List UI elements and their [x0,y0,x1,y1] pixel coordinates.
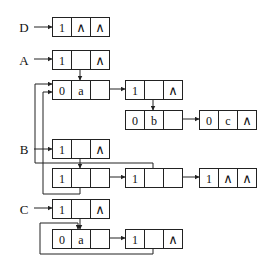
list-node-b3: 1 [126,169,183,188]
list-node-ac: 0c∧ [200,111,257,130]
cell-value: 0 [59,84,65,98]
list-node-b4: 1∧∧ [200,169,257,188]
generalized-list-diagram: 1∧∧1∧0a1∧0b0c∧1∧111∧∧1∧0a1∧ DABC [0,0,269,270]
nodes-layer: 1∧∧1∧0a1∧0b0c∧1∧111∧∧1∧0a1∧ [53,18,257,249]
list-node-a2: 1∧ [126,81,183,100]
null-pointer-symbol: ∧ [95,202,105,217]
list-node-b1: 1∧ [53,140,110,159]
cell-value: 1 [59,21,65,35]
cell-value: b [151,114,157,128]
cell-value: 1 [132,172,138,186]
head-field [72,51,91,70]
list-node-ca: 0a [53,230,110,249]
null-pointer-symbol: ∧ [242,113,252,128]
head-field [145,169,164,188]
list-node-b2: 1 [53,169,110,188]
list-node-d1: 1∧∧ [53,18,110,37]
cell-value: c [225,114,230,128]
head-field [145,81,164,100]
cell-value: 1 [59,203,65,217]
list-node-c2: 1∧ [126,230,183,249]
cell-value: a [78,233,84,247]
cell-value: 1 [132,84,138,98]
cell-value: 0 [59,233,65,247]
cell-value: 1 [132,233,138,247]
list-label-a: A [19,53,29,68]
cell-value: 0 [206,114,212,128]
tail-field [91,81,110,100]
cell-value: 1 [59,143,65,157]
diagram-canvas: 1∧∧1∧0a1∧0b0c∧1∧111∧∧1∧0a1∧ DABC [0,0,269,270]
null-pointer-symbol: ∧ [95,53,105,68]
tail-field [164,111,183,130]
null-pointer-symbol: ∧ [168,83,178,98]
cell-value: a [78,84,84,98]
labels-layer: DABC [19,20,29,217]
cell-value: 1 [206,172,212,186]
head-field [145,230,164,249]
tail-field [91,169,110,188]
null-pointer-symbol: ∧ [223,171,233,186]
tail-field [91,230,110,249]
cell-value: 1 [59,172,65,186]
list-label-d: D [19,20,28,35]
tail-field [164,169,183,188]
null-pointer-symbol: ∧ [95,20,105,35]
list-label-c: C [20,202,29,217]
head-field [72,140,91,159]
null-pointer-symbol: ∧ [242,171,252,186]
null-pointer-symbol: ∧ [168,232,178,247]
cell-value: 1 [59,54,65,68]
head-field [72,169,91,188]
list-node-ab: 0b [126,111,183,130]
list-node-aa: 0a [53,81,110,100]
head-field [72,200,91,219]
null-pointer-symbol: ∧ [76,20,86,35]
list-node-a1: 1∧ [53,51,110,70]
list-node-c1: 1∧ [53,200,110,219]
cell-value: 0 [132,114,138,128]
null-pointer-symbol: ∧ [95,142,105,157]
list-label-b: B [20,142,29,157]
